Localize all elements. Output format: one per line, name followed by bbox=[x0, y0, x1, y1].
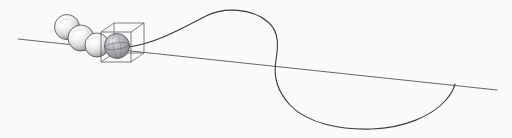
illustration-canvas bbox=[0, 0, 512, 138]
figure-illustration: Technical illustration: a chain of four … bbox=[0, 0, 512, 138]
sphere-4-body bbox=[105, 34, 130, 59]
sphere-4 bbox=[104, 33, 129, 58]
